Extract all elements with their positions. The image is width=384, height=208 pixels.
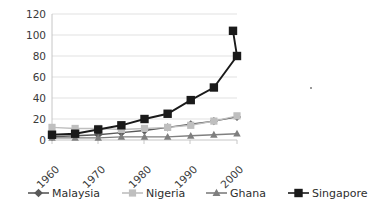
y-tick-label: 40 [33, 92, 46, 104]
y-tick-label: 0 [39, 134, 46, 146]
legend-label: Nigeria [146, 187, 185, 200]
y-tick-label: 20 [33, 113, 46, 125]
gridlines [52, 14, 237, 119]
data-point-marker [164, 124, 171, 131]
data-point-marker [210, 83, 218, 91]
data-point-marker [129, 189, 136, 196]
legend-item-ghana[interactable]: Ghana [206, 187, 266, 200]
data-series-layer [48, 27, 241, 141]
x-axis-ticks [52, 140, 237, 144]
data-point-marker [48, 131, 56, 139]
chart-legend: MalaysiaNigeriaGhanaSingapore [28, 187, 368, 200]
y-tick-label: 100 [26, 29, 46, 41]
data-point-marker [233, 52, 241, 60]
line-chart-figure: 120 100 80 60 40 20 0 1960 1970 1980 199… [0, 0, 384, 208]
data-point-marker [294, 189, 302, 197]
data-point-marker [233, 112, 240, 119]
data-point-marker [210, 118, 217, 125]
y-tick-label: 60 [33, 71, 46, 83]
legend-label: Malaysia [52, 187, 100, 200]
y-tick-label: 80 [33, 50, 46, 62]
data-point-marker [117, 121, 125, 129]
data-point-marker [163, 110, 171, 118]
legend-item-singapore[interactable]: Singapore [288, 187, 368, 200]
data-point-marker [48, 124, 55, 131]
legend-label: Ghana [230, 187, 266, 200]
data-point-marker [71, 130, 79, 138]
data-point-marker [187, 96, 195, 104]
data-point-marker [94, 125, 102, 133]
legend-label: Singapore [312, 187, 368, 200]
data-point-marker [187, 122, 194, 129]
data-point-marker [140, 115, 148, 123]
legend-item-malaysia[interactable]: Malaysia [28, 187, 100, 200]
data-point-marker [229, 27, 237, 35]
data-point-marker [141, 125, 148, 132]
y-axis-tick-labels: 120 100 80 60 40 20 0 [26, 8, 46, 146]
y-tick-label: 120 [26, 8, 46, 20]
stray-dot-icon [310, 87, 312, 89]
chart-svg: 120 100 80 60 40 20 0 1960 1970 1980 199… [0, 0, 384, 208]
